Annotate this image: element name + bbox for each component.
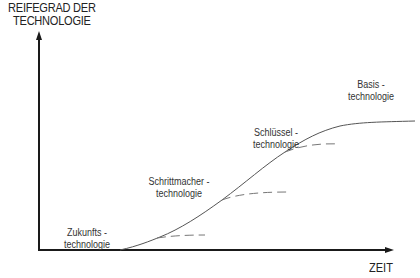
stage-label-basis: Basis - technologie	[339, 79, 404, 103]
x-axis-arrow-icon	[385, 247, 394, 253]
stage-label-zukunft: Zukunfts - technologie	[56, 227, 119, 251]
stage-label-line1: Basis -	[339, 79, 404, 91]
stage-label-line2: technologie	[244, 139, 309, 151]
stage-label-schrittmacher: Schrittmacher - technologie	[139, 176, 218, 200]
stage-label-line2: technologie	[56, 239, 119, 251]
x-axis-title: ZEIT	[369, 260, 393, 275]
stage-label-line2: technologie	[339, 91, 404, 103]
dashed-branch-2	[222, 192, 288, 200]
stage-label-line1: Schlüssel -	[244, 127, 309, 139]
y-axis-arrow-icon	[36, 31, 42, 40]
stage-label-line2: technologie	[139, 188, 218, 200]
stage-label-line1: Zukunfts -	[56, 227, 119, 239]
stage-label-schluessel: Schlüssel - technologie	[244, 127, 309, 151]
stage-label-line1: Schrittmacher -	[139, 176, 218, 188]
